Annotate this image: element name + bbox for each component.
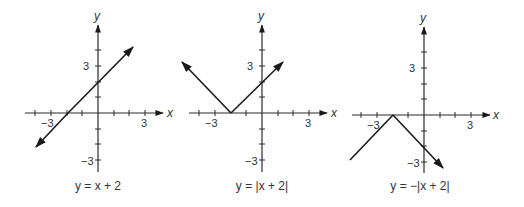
tick-label-pos-y: 3 bbox=[83, 60, 89, 72]
tick-label-pos-y: 3 bbox=[409, 62, 415, 74]
tick-label-neg-x: −3 bbox=[367, 119, 380, 131]
tick-label-pos-x: 3 bbox=[305, 117, 311, 129]
tick-label-pos-y: 3 bbox=[247, 60, 253, 72]
x-axis-label: x bbox=[166, 106, 174, 120]
tick-label-neg-y: −3 bbox=[245, 155, 258, 167]
tick-label-neg-y: −3 bbox=[81, 155, 94, 167]
caption: y = −|x + 2| bbox=[390, 179, 449, 193]
tick-label-neg-x: −3 bbox=[41, 117, 54, 129]
tick-label-neg-x: −3 bbox=[205, 117, 218, 129]
y-axis-label: y bbox=[93, 9, 101, 23]
tick-label-pos-x: 3 bbox=[467, 119, 473, 131]
v-graph-right bbox=[231, 62, 283, 113]
panel-linear: y x −3 3 3 −3 y = x + 2 bbox=[25, 9, 174, 193]
x-axis-label: x bbox=[330, 106, 338, 120]
y-axis-label: y bbox=[419, 11, 427, 25]
tick-label-pos-x: 3 bbox=[141, 117, 147, 129]
tick-label-neg-y: −3 bbox=[407, 157, 420, 169]
y-axis-label: y bbox=[257, 9, 265, 23]
caption: y = x + 2 bbox=[75, 179, 121, 193]
v-graph-left bbox=[182, 62, 231, 113]
line-graph bbox=[68, 47, 133, 113]
panel-negative-absolute: y x −3 3 3 −3 y = −|x + 2| bbox=[350, 11, 500, 193]
caption: y = |x + 2| bbox=[236, 179, 288, 193]
x-axis-label: x bbox=[492, 108, 500, 122]
figure-canvas: y x −3 3 3 −3 y = x + 2 y x bbox=[0, 0, 524, 207]
panel-absolute: y x −3 3 3 −3 y = |x + 2| bbox=[182, 9, 338, 193]
